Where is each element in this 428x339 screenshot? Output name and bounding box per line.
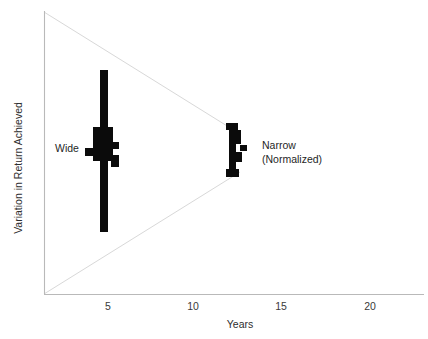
marker-narrow-cap-top: [226, 123, 238, 130]
marker-wide-box: [93, 127, 113, 161]
chart-background: [0, 0, 428, 339]
series-label-wide: Wide: [55, 142, 79, 154]
marker-narrow-cap-bottom: [226, 169, 239, 177]
series-label-narrow: Narrow: [262, 139, 296, 151]
marker-narrow-box-upper: [235, 130, 241, 144]
x-axis-title: Years: [227, 318, 253, 330]
x-tick-label-10: 10: [187, 300, 199, 312]
y-axis-title: Variation in Return Achieved: [12, 102, 24, 234]
marker-wide-right-tab-lower: [111, 155, 119, 167]
variation-in-return-chart: 5 10 15 20 Years Variation in Return Ach…: [0, 0, 428, 339]
marker-narrow-whisker: [229, 123, 236, 176]
series-sublabel-narrow: (Normalized): [262, 153, 322, 165]
marker-narrow-median-tab: [240, 145, 247, 151]
x-tick-label-20: 20: [364, 300, 376, 312]
x-tick-label-5: 5: [105, 300, 111, 312]
x-tick-label-15: 15: [275, 300, 287, 312]
marker-wide-right-tab-upper: [111, 142, 119, 149]
chart-container: 5 10 15 20 Years Variation in Return Ach…: [0, 0, 428, 339]
marker-narrow-box-lower: [235, 152, 242, 162]
marker-wide-median-left-tab: [85, 148, 95, 156]
